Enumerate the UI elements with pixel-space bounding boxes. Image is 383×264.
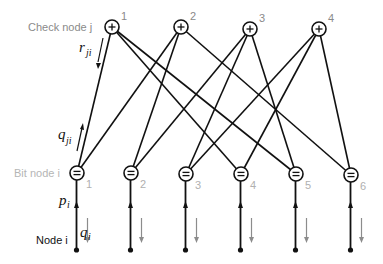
- q-ji-sub: ji: [64, 135, 72, 146]
- edge-c1-b4: [112, 27, 241, 174]
- bit-node-circle: [124, 166, 138, 180]
- r-ji-sub: ji: [84, 47, 92, 58]
- arrowhead-icon: [80, 123, 84, 130]
- down-arrowhead-icon: [359, 237, 364, 243]
- edge-c3-b3: [186, 29, 250, 174]
- q-i-base: q: [80, 224, 88, 240]
- p-i-annotation: p i: [58, 192, 70, 210]
- edge-c1-b5: [112, 27, 296, 174]
- down-arrow-icon: [98, 38, 103, 62]
- down-arrowhead-icon: [249, 237, 254, 243]
- up-arrowhead-icon: [128, 201, 133, 208]
- check-node-index: 2: [190, 10, 196, 22]
- input-node-dot: [293, 247, 298, 252]
- p-i-sub: i: [67, 199, 70, 210]
- bit-node-circle: [179, 167, 193, 181]
- input-node-dot: [74, 247, 79, 252]
- check-node-index: 1: [121, 10, 127, 22]
- q-ji-annotation: q ji: [58, 123, 84, 151]
- check-node-2: 2: [174, 10, 196, 34]
- check-node-index: 4: [328, 12, 334, 24]
- input-node-dot: [128, 247, 133, 252]
- q-ji-base: q: [58, 126, 66, 142]
- up-arrowhead-icon: [293, 201, 298, 208]
- check-node-3: 3: [243, 12, 265, 36]
- bit-node-3: 3: [179, 167, 201, 191]
- input-node-dot: [348, 247, 353, 252]
- bit-node-6: 6: [344, 168, 366, 192]
- q-i-sub: i: [88, 231, 91, 242]
- down-arrowhead-icon: [304, 237, 309, 243]
- channel-layer: [74, 180, 364, 253]
- bit-node-circle: [289, 167, 303, 181]
- up-arrowhead-icon: [238, 201, 243, 208]
- q-i-annotation: q i: [80, 224, 91, 242]
- bit-node-5: 5: [289, 167, 311, 191]
- check-node-1: 1: [105, 10, 127, 34]
- check-node-4: 4: [312, 12, 334, 36]
- edge-layer: [77, 27, 351, 175]
- bit-node-label: Bit node i: [14, 167, 60, 179]
- bit-node-index: 2: [140, 178, 146, 190]
- bit-node-4: 4: [234, 167, 256, 191]
- bit-node-index: 1: [86, 178, 92, 190]
- down-arrowhead-icon: [139, 237, 144, 243]
- edge-c3-b5: [250, 29, 296, 174]
- bit-node-1: 1: [70, 166, 92, 190]
- edge-c3-b2: [131, 29, 250, 173]
- check-node-layer: 1234: [105, 10, 334, 36]
- up-arrowhead-icon: [74, 201, 79, 208]
- r-ji-annotation: r ji: [79, 38, 103, 69]
- tanner-graph: 1234 123456 Check node j Bit node i Node…: [0, 0, 383, 264]
- bit-node-circle: [234, 167, 248, 181]
- input-node-dot: [183, 247, 188, 252]
- bit-node-circle: [70, 166, 84, 180]
- bit-node-index: 6: [360, 180, 366, 192]
- p-i-base: p: [58, 192, 67, 208]
- bit-node-layer: 123456: [70, 166, 366, 192]
- up-arrowhead-icon: [348, 201, 353, 208]
- check-node-label: Check node j: [28, 21, 92, 33]
- down-arrowhead-icon: [194, 237, 199, 243]
- bit-node-index: 4: [250, 179, 256, 191]
- bit-node-index: 3: [195, 179, 201, 191]
- check-node-index: 3: [259, 12, 265, 24]
- up-arrowhead-icon: [183, 201, 188, 208]
- up-arrow-icon: [77, 128, 82, 151]
- arrowhead-icon: [96, 63, 101, 69]
- bit-node-circle: [344, 168, 358, 182]
- node-i-label: Node i: [36, 234, 68, 246]
- edge-c4-b6: [319, 29, 351, 175]
- r-ji-base: r: [79, 39, 85, 55]
- input-node-dot: [238, 247, 243, 252]
- bit-node-index: 5: [305, 179, 311, 191]
- edge-c2-b1: [77, 27, 181, 173]
- bit-node-2: 2: [124, 166, 146, 190]
